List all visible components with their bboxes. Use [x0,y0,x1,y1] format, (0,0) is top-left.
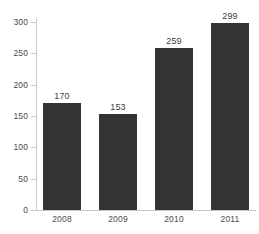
y-axis-tick [31,179,36,180]
y-axis-tick-label: 300 [0,18,28,27]
y-axis-tick [31,85,36,86]
bar-value-label: 299 [211,11,249,21]
y-axis-tick-label: 250 [0,49,28,58]
x-axis-line [36,210,256,211]
bar-2008 [43,103,81,210]
y-axis-tick [31,53,36,54]
y-axis-tick-label: 50 [0,175,28,184]
y-axis-tick-label: 100 [0,143,28,152]
y-axis-tick [31,147,36,148]
bar-2011 [211,23,249,210]
bar-chart: 300 250 200 150 100 50 0 170 153 259 299… [0,0,259,234]
x-axis-category-label: 2008 [43,214,81,224]
bar-value-label: 170 [43,91,81,101]
y-axis-tick [31,116,36,117]
y-axis-line [36,18,37,211]
y-axis-tick [31,210,36,211]
bar-value-label: 259 [155,36,193,46]
x-axis-category-label: 2010 [155,214,193,224]
bar-2010 [155,48,193,210]
y-axis-tick-label: 0 [0,206,28,215]
y-axis-tick-label: 150 [0,112,28,121]
y-axis-tick-label: 200 [0,81,28,90]
bar-2009 [99,114,137,210]
y-axis-tick [31,22,36,23]
x-axis-category-label: 2011 [211,214,249,224]
x-axis-category-label: 2009 [99,214,137,224]
bar-value-label: 153 [99,102,137,112]
